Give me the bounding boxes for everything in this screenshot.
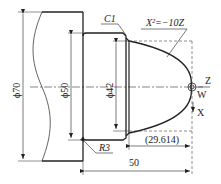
dim-70-label: ϕ70 bbox=[11, 83, 22, 98]
equation-leader bbox=[141, 29, 187, 57]
chamfer-label: C1 bbox=[104, 13, 116, 24]
dim-29614-label: (29.614) bbox=[145, 134, 179, 146]
origin-label: W bbox=[197, 89, 207, 100]
lathe-part-drawing: Z W X ϕ70 ϕ50 ϕ42 C1 X²=−10Z R3 (29.614)… bbox=[0, 0, 221, 184]
axis-x-label: X bbox=[197, 107, 205, 118]
fillet-label: R3 bbox=[98, 142, 110, 153]
stock-section-70 bbox=[33, 12, 83, 161]
axis-z-label: Z bbox=[205, 75, 211, 86]
dim-total-label: 50 bbox=[129, 157, 139, 168]
dim-50-label: ϕ50 bbox=[59, 83, 70, 98]
dim-42-label: ϕ42 bbox=[104, 83, 115, 98]
curve-equation-label: X²=−10Z bbox=[145, 17, 185, 28]
dashed-envelope bbox=[129, 41, 192, 175]
